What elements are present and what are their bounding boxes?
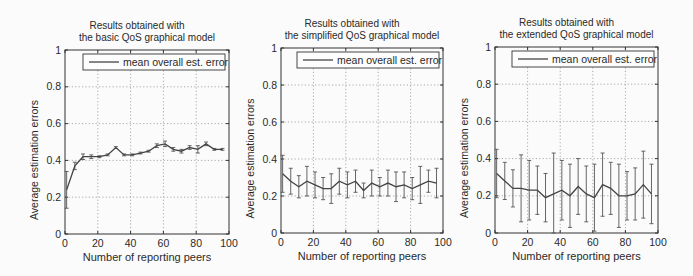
plot-area [495, 47, 658, 233]
x-tick-label: 20 [522, 236, 534, 248]
legend: mean overall est. error [512, 51, 658, 67]
chart-title: the basic QoS graphical model [79, 32, 215, 43]
x-tick-label: 80 [190, 237, 202, 249]
x-tick-label: 100 [649, 236, 667, 248]
chart-title: Results obtained with [89, 20, 184, 31]
x-tick-label: 0 [492, 236, 498, 248]
x-tick-label: 20 [308, 236, 320, 248]
legend-entry: mean overall est. error [337, 54, 443, 66]
y-tick-label: 0.8 [476, 78, 491, 90]
x-tick-label: 40 [125, 237, 137, 249]
x-tick-label: 80 [405, 236, 417, 248]
x-tick-label: 60 [372, 236, 384, 248]
y-axis-label: Average estimation errors [458, 98, 470, 218]
x-tick-label: 40 [340, 236, 352, 248]
x-axis-label: Number of reporting peers [298, 250, 427, 262]
y-tick-label: 0.4 [262, 153, 277, 165]
y-tick-label: 0.6 [46, 117, 61, 129]
series-line [67, 144, 223, 190]
y-tick-label: 0.6 [476, 115, 491, 127]
x-tick-label: 0 [278, 236, 284, 248]
y-tick-label: 0.6 [262, 116, 277, 128]
x-tick-label: 0 [62, 237, 68, 249]
chart-title: the simplified QoS graphical model [285, 30, 440, 41]
y-tick-label: 0.2 [476, 189, 491, 201]
x-tick-label: 60 [587, 236, 599, 248]
plot-area [281, 48, 443, 233]
x-tick-label: 100 [434, 236, 452, 248]
chart-title: Results obtained with [304, 18, 399, 29]
y-axis-label: Average estimation errors [28, 100, 40, 220]
y-tick-label: 0 [271, 227, 277, 239]
figure: 02040608010000.20.40.60.81Results obtain… [0, 0, 693, 276]
legend-entry: mean overall est. error [552, 53, 658, 65]
chart-title: Results obtained with [519, 17, 614, 28]
x-tick-label: 80 [620, 236, 632, 248]
y-tick-label: 0.4 [46, 154, 61, 166]
x-tick-label: 20 [92, 237, 104, 249]
y-tick-label: 0.8 [262, 79, 277, 91]
y-axis-label: Average estimation errors [244, 98, 256, 218]
y-tick-label: 1 [55, 44, 61, 56]
y-tick-label: 0.4 [476, 152, 491, 164]
y-tick-label: 0.2 [46, 191, 61, 203]
series-line [497, 173, 652, 197]
legend-entry: mean overall est. error [123, 56, 229, 68]
chart-figure: 02040608010000.20.40.60.81Results obtain… [0, 0, 693, 276]
y-tick-label: 0 [485, 227, 491, 239]
y-tick-label: 0.8 [46, 80, 61, 92]
y-tick-label: 1 [485, 41, 491, 53]
chart-panel-2: 02040608010000.20.40.60.81Results obtain… [244, 18, 452, 262]
x-tick-label: 60 [158, 237, 170, 249]
y-tick-label: 0.2 [262, 190, 277, 202]
y-tick-label: 0 [55, 228, 61, 240]
chart-panel-3: 02040608010000.20.40.60.81Results obtain… [458, 17, 667, 262]
series-line [283, 174, 437, 191]
chart-panel-1: 02040608010000.20.40.60.81Results obtain… [28, 20, 238, 263]
legend: mean overall est. error [297, 52, 443, 68]
x-axis-label: Number of reporting peers [512, 250, 641, 262]
y-tick-label: 1 [271, 42, 277, 54]
chart-title: the extended QoS graphical model [500, 29, 654, 40]
legend: mean overall est. error [83, 54, 229, 70]
x-tick-label: 100 [220, 237, 238, 249]
x-tick-label: 40 [554, 236, 566, 248]
x-axis-label: Number of reporting peers [83, 251, 212, 263]
